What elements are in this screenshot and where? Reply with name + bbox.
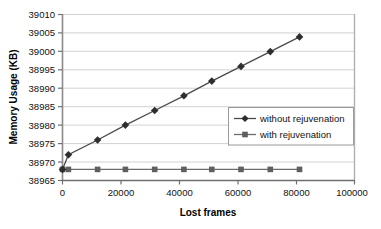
x-axis-title: Lost frames [180, 207, 237, 218]
square-marker [268, 167, 274, 173]
y-tick-label: 39000 [29, 46, 55, 57]
x-tick-labels: 0 20000 40000 60000 80000 100000 [60, 187, 368, 198]
y-axis-ticks [58, 15, 62, 181]
x-tick-label: 60000 [225, 187, 251, 198]
square-marker [123, 167, 129, 173]
x-tick-label: 40000 [166, 187, 192, 198]
square-marker [238, 167, 244, 173]
y-tick-label: 38965 [29, 175, 55, 186]
y-axis-title: Memory Usage (KB) [8, 49, 19, 144]
square-marker [297, 167, 303, 173]
square-marker [242, 132, 248, 138]
legend-label: with rejuvenation [259, 129, 331, 140]
line-chart: 39010 39005 39000 38995 38990 38985 3898… [0, 0, 381, 229]
chart-figure: 39010 39005 39000 38995 38990 38985 3898… [0, 0, 381, 229]
square-marker [152, 167, 158, 173]
legend-label: without rejuvenation [259, 113, 345, 124]
y-tick-label: 38975 [29, 138, 55, 149]
y-tick-label: 38985 [29, 101, 55, 112]
x-tick-label: 20000 [108, 187, 134, 198]
square-marker [95, 167, 101, 173]
y-tick-label: 38970 [29, 157, 55, 168]
x-tick-label: 0 [60, 187, 65, 198]
square-marker [181, 167, 187, 173]
y-tick-label: 38995 [29, 64, 55, 75]
x-tick-label: 100000 [336, 187, 368, 198]
y-tick-label: 39010 [29, 9, 55, 20]
square-marker [209, 167, 215, 173]
square-marker [66, 167, 72, 173]
y-tick-label: 38990 [29, 83, 55, 94]
y-tick-label: 38980 [29, 120, 55, 131]
plot-area-background [62, 14, 355, 180]
y-tick-label: 39005 [29, 27, 55, 38]
x-tick-label: 80000 [283, 187, 309, 198]
y-tick-labels: 39010 39005 39000 38995 38990 38985 3898… [29, 9, 55, 186]
chart-legend: without rejuvenation with rejuvenation [229, 108, 354, 146]
